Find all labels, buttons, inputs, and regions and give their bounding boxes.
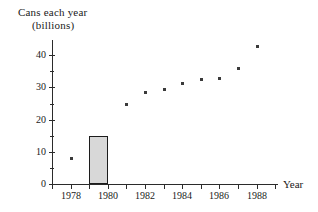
y-tick-label: 10 [24, 147, 46, 157]
y-tick-minor [50, 168, 54, 169]
y-tick-minor [50, 136, 54, 137]
chart-container: Cans each year (billions) 010203040 1978… [0, 0, 318, 212]
y-tick-major [49, 55, 55, 56]
data-point [218, 77, 221, 80]
y-tick-label: 40 [24, 50, 46, 60]
y-axis-line [52, 40, 53, 185]
x-tick [201, 184, 202, 189]
x-tick-label: 1982 [128, 191, 162, 201]
data-point [200, 78, 203, 81]
x-tick [257, 184, 258, 189]
x-tick-label: 1978 [54, 191, 88, 201]
x-tick-label: 1986 [202, 191, 236, 201]
chart-title-line-2: (billions) [32, 19, 74, 32]
x-tick [126, 184, 127, 189]
chart-title-line-1: Cans each year [18, 6, 87, 19]
data-point [125, 103, 128, 106]
y-tick-major [49, 152, 55, 153]
data-point [181, 82, 184, 85]
x-tick [145, 184, 146, 189]
x-tick [182, 184, 183, 189]
data-point [70, 157, 73, 160]
x-axis-line [52, 184, 278, 185]
x-tick [238, 184, 239, 189]
data-point [256, 45, 259, 48]
x-tick-label: 1988 [240, 191, 274, 201]
y-tick-minor [50, 104, 54, 105]
y-tick-minor [50, 71, 54, 72]
x-axis-label: Year [283, 179, 303, 190]
y-tick-major [49, 120, 55, 121]
y-tick-label: 30 [24, 82, 46, 92]
highlight-bar [89, 136, 108, 184]
x-tick [52, 184, 53, 189]
x-tick [275, 184, 276, 189]
x-tick [219, 184, 220, 189]
y-tick-label: 20 [24, 115, 46, 125]
data-point [163, 88, 166, 91]
x-tick-label: 1980 [91, 191, 125, 201]
x-tick [164, 184, 165, 189]
y-tick-label: 0 [24, 179, 46, 189]
y-tick-major [49, 87, 55, 88]
x-tick [71, 184, 72, 189]
data-point [144, 91, 147, 94]
x-tick [108, 184, 109, 189]
x-tick [89, 184, 90, 189]
x-tick-label: 1984 [165, 191, 199, 201]
data-point [237, 67, 240, 70]
